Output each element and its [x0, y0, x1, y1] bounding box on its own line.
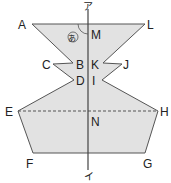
label-M: M [91, 28, 101, 42]
label-A: A [18, 18, 26, 32]
label-C: C [42, 58, 51, 72]
geometry-diagram: ア イ あ A L M C B K J D I E H N F G [0, 0, 171, 183]
label-G: G [143, 157, 152, 171]
label-H: H [160, 105, 169, 119]
label-E: E [5, 105, 13, 119]
axis-top-label: ア [83, 1, 93, 12]
angle-label: あ [68, 34, 76, 43]
axis-bottom-label: イ [84, 171, 94, 182]
label-N: N [91, 115, 100, 129]
label-K: K [91, 58, 99, 72]
label-J: J [123, 58, 129, 72]
label-B: B [76, 58, 84, 72]
label-L: L [147, 18, 154, 32]
label-D: D [76, 74, 85, 88]
label-I: I [92, 74, 95, 88]
label-F: F [26, 157, 33, 171]
